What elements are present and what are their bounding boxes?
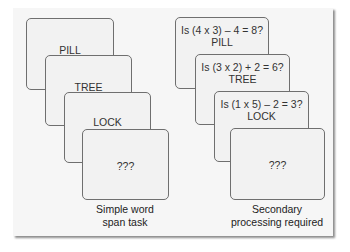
left-card-3-word: LOCK — [65, 116, 150, 128]
right-card-1-word: PILL — [176, 36, 268, 48]
right-caption-line-1: Secondary — [222, 203, 332, 216]
right-card-4-unknown: ??? — [231, 159, 324, 171]
right-caption: Secondary processing required — [222, 203, 332, 229]
left-caption-line-1: Simple word — [75, 203, 175, 216]
right-caption-line-2: processing required — [222, 216, 332, 229]
left-caption: Simple word span task — [75, 203, 175, 229]
right-card-3-word: LOCK — [215, 110, 308, 122]
left-card-4: ??? — [82, 129, 169, 200]
right-card-1-equation: Is (4 x 3) – 4 = 8? — [176, 24, 268, 36]
right-card-4: ??? — [230, 128, 325, 200]
right-card-2-word: TREE — [196, 73, 289, 85]
left-card-4-unknown: ??? — [83, 160, 168, 172]
left-caption-line-2: span task — [75, 216, 175, 229]
right-card-2-equation: Is (3 x 2) + 2 = 6? — [196, 61, 289, 73]
right-card-3-equation: Is (1 x 5) – 2 = 3? — [215, 98, 308, 110]
